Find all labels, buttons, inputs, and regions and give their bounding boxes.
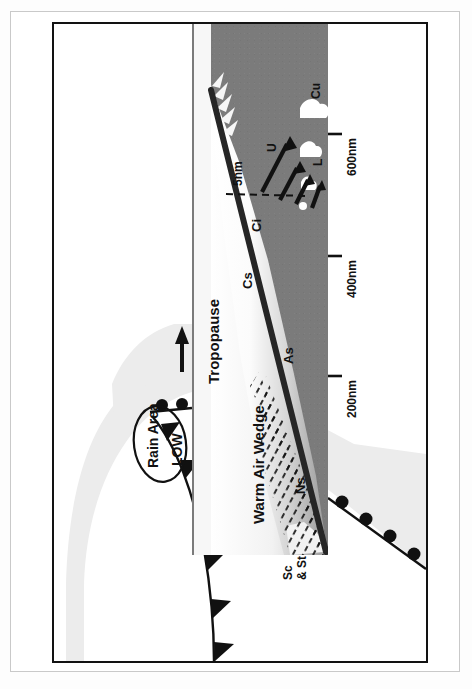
- distance-tick-400nm: 400nm: [346, 260, 358, 298]
- distance-scale-layer: [54, 24, 426, 661]
- distance-tick-200nm: 200nm: [346, 380, 358, 418]
- scan-header-text: [336, 1, 464, 8]
- distance-tick-600nm: 600nm: [346, 138, 358, 176]
- figure-frame: Rain Area LOW: [52, 22, 428, 663]
